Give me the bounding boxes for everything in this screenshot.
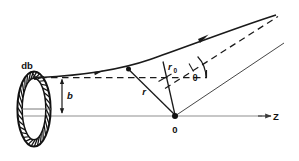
z-axis-label: Z (273, 111, 279, 122)
impact-parameter-group: b (62, 80, 73, 114)
impact-parameter-label: b (67, 90, 73, 101)
scattering-angle-arc (198, 57, 206, 78)
scattering-angle-label: θ (192, 72, 197, 83)
hyperbolic-trajectory (40, 15, 276, 78)
outgoing-ray-from-origin (175, 43, 284, 116)
entry-segment (33, 77, 44, 78)
scattering-diagram-figure: Z db (0, 0, 299, 161)
perihelion-tick-b (189, 64, 194, 72)
r0-label-group: r 0 (168, 61, 178, 74)
perihelion-tick-a (159, 74, 172, 82)
origin-label: 0 (172, 124, 177, 135)
scattering-diagram-canvas: Z db (0, 0, 299, 161)
closest-approach-subscript: 0 (174, 67, 178, 74)
outgoing-asymptote-dashed (165, 17, 278, 89)
closest-approach-label: r (168, 61, 173, 72)
db-label: db (21, 60, 33, 71)
origin-point-marker (172, 113, 178, 119)
